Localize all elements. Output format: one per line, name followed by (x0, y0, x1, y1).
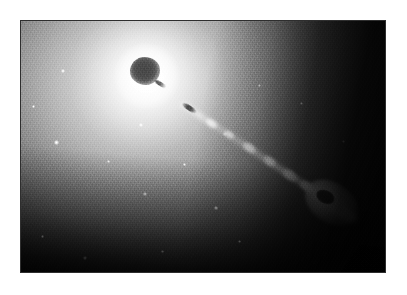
page-root (0, 0, 407, 295)
detector-noise-coarse (21, 21, 385, 272)
photo-frame (20, 20, 386, 273)
astronomical-image (21, 21, 385, 272)
